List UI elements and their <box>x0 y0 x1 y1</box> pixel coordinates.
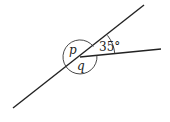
label-35-degrees: 35° <box>99 40 120 54</box>
label-q: q <box>77 59 85 73</box>
label-p: p <box>69 43 77 57</box>
main-line <box>13 5 144 108</box>
ray-line <box>80 49 161 57</box>
angle-diagram: p q 35° <box>0 0 170 122</box>
